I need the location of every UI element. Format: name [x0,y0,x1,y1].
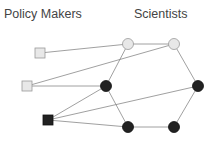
edge [174,86,198,127]
policy-maker-node [43,115,53,125]
scientist-node [123,122,134,133]
edge [48,120,128,127]
edge [106,44,128,86]
edge [27,44,174,86]
scientist-node [169,39,180,50]
scientist-node [123,39,134,50]
network-diagram [0,0,216,141]
policy-maker-node [35,48,45,58]
scientist-node [101,81,112,92]
policy-maker-node [22,81,32,91]
scientist-node [193,81,204,92]
edge [40,44,128,53]
edge [48,86,198,120]
edge [48,86,106,120]
scientist-node [169,122,180,133]
edge [174,44,198,86]
